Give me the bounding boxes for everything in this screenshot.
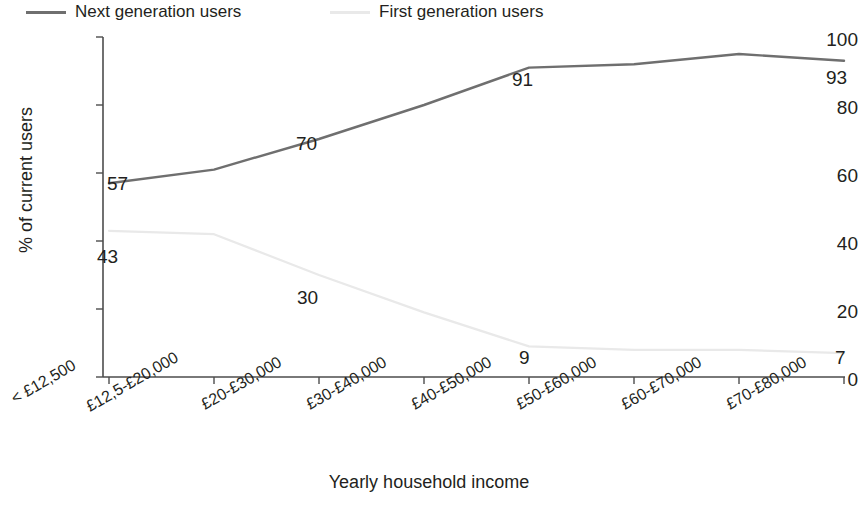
footnote-text	[8, 506, 428, 520]
data-label-first-7: 7	[835, 348, 846, 367]
data-label-next-7: 93	[826, 68, 847, 87]
data-label-next-0: 57	[107, 174, 128, 193]
chart-figure: Next generation users First generation u…	[0, 0, 858, 520]
series-line-next-generation-users	[109, 54, 844, 183]
y-tick-label-20: 20	[762, 302, 858, 321]
x-axis-title: Yearly household income	[0, 472, 858, 492]
data-label-next-4: 91	[512, 70, 533, 89]
y-tick-label-40: 40	[762, 234, 858, 253]
y-tick-label-80: 80	[762, 98, 858, 117]
y-axis-title: % of current users	[16, 70, 36, 290]
y-axis-ticks	[96, 37, 103, 377]
chart-canvas	[0, 0, 858, 520]
y-tick-label-60: 60	[762, 166, 858, 185]
data-label-next-2: 70	[296, 134, 317, 153]
data-label-first-0: 43	[97, 247, 118, 266]
y-tick-label-100: 100	[762, 30, 858, 49]
data-label-first-4: 9	[519, 348, 530, 367]
plot-area: 100 80 60 40 20 0 % of current users < £…	[0, 0, 858, 520]
data-label-first-2: 30	[297, 288, 318, 307]
series-line-first-generation-users	[109, 231, 844, 353]
